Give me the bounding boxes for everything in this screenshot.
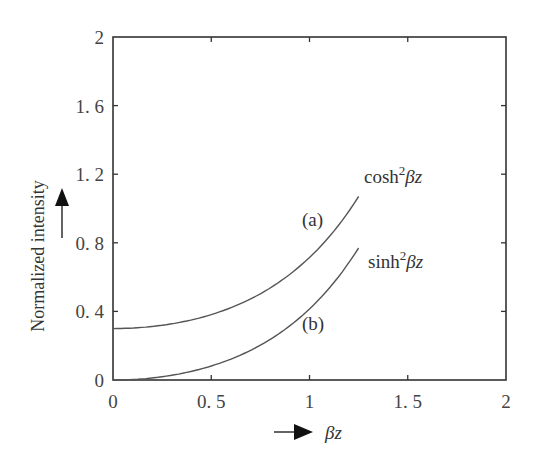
- curve-b-tag: (b): [302, 313, 324, 335]
- y-tick-label: 2: [95, 27, 105, 48]
- curve-a-tag: (a): [302, 209, 323, 231]
- chart: 00. 511. 5200. 40. 81. 21. 62(a)(b)cosh2…: [0, 0, 536, 468]
- y-tick-label: 1. 6: [76, 96, 105, 117]
- x-tick-label: 0. 5: [197, 391, 226, 412]
- y-tick-label: 1. 2: [76, 164, 105, 185]
- x-tick-label: 0: [108, 391, 118, 412]
- y-axis-label: Normalized intensity: [28, 180, 48, 331]
- x-tick-label: 2: [501, 391, 511, 412]
- curve-a-label: cosh2βz: [364, 163, 423, 187]
- y-tick-label: 0: [95, 370, 105, 391]
- x-tick-label: 1. 5: [394, 391, 423, 412]
- x-axis-label: βz: [324, 422, 342, 443]
- y-arrow-icon: [55, 188, 69, 206]
- plot-area: 00. 511. 5200. 40. 81. 21. 62(a)(b)cosh2…: [28, 27, 511, 443]
- curve-b-label: sinh2βz: [368, 248, 424, 272]
- x-arrow-icon: [294, 424, 313, 440]
- x-tick-label: 1: [305, 391, 315, 412]
- y-tick-label: 0. 8: [76, 233, 105, 254]
- y-tick-label: 0. 4: [76, 301, 105, 322]
